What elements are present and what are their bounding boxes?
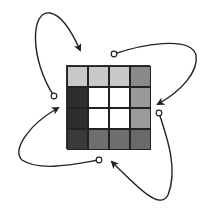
diagram-canvas <box>0 0 206 211</box>
top-right-loop-arrow <box>114 43 196 104</box>
arrow-layer <box>0 0 206 211</box>
bottom-right-loop-start-circle-icon <box>156 110 162 116</box>
top-right-loop-start-circle-icon <box>111 51 117 57</box>
top-left-loop-arrow <box>35 13 80 96</box>
bottom-left-loop-arrow <box>19 108 99 166</box>
top-left-loop-start-circle-icon <box>51 93 57 99</box>
bottom-right-loop-arrow <box>112 113 172 200</box>
bottom-left-loop-start-circle-icon <box>96 157 102 163</box>
